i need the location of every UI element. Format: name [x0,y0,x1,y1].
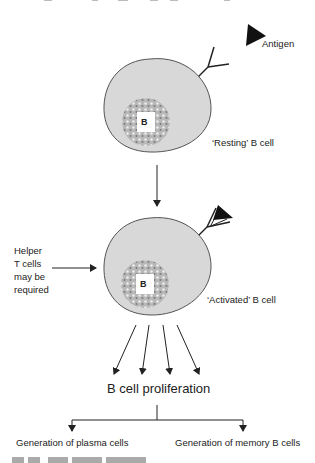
bound-antigen-icon [198,205,233,236]
nucleus-letter: B [141,116,148,128]
branch-connector [72,405,243,431]
helper-label-3: may be [14,271,45,283]
proliferation-arrows [114,325,199,374]
helper-label-4: required [14,284,49,296]
receptor-icon [198,47,229,77]
proliferation-label: B cell proliferation [107,381,210,396]
cut-text-fragment [44,0,230,1]
antigen-label: Antigen [262,38,294,50]
memory-cells-label: Generation of memory B cells [175,437,300,449]
plasma-cells-label: Generation of plasma cells [16,437,128,449]
activated-b-cell [104,218,211,315]
nucleus-letter: B [140,278,147,290]
caption-fragment [12,457,146,463]
helper-label-2: T cells [14,258,41,270]
resting-b-cell-label: ‘Resting’ B cell [212,137,274,149]
resting-b-cell [104,59,211,152]
activated-b-cell-label: ‘Activated’ B cell [207,294,276,306]
helper-label-1: Helper [14,245,42,257]
